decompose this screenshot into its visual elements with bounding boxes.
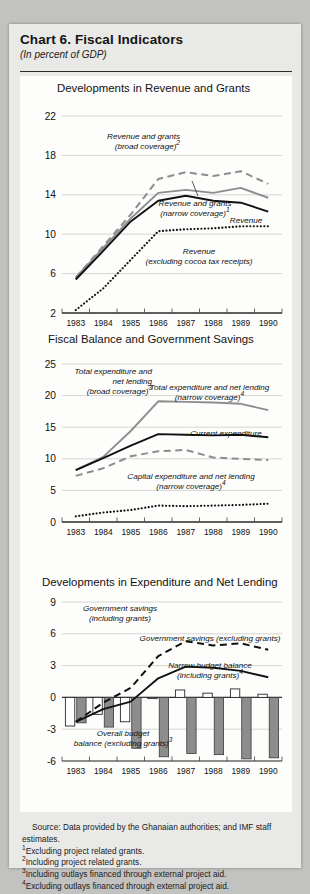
footnotes: Source: Data provided by the Ghanaian au… <box>22 822 292 893</box>
x-tick-label: 1984 <box>94 766 113 776</box>
footnote-1: 1Excluding project related grants. <box>22 846 292 858</box>
panel-2-plot: 0510152025198319841985198619871988198919… <box>20 326 292 569</box>
y-tick-label: 15 <box>45 422 57 433</box>
bar <box>258 694 267 697</box>
bar <box>230 689 239 697</box>
x-tick-label: 1987 <box>176 766 195 776</box>
x-tick-label: 1985 <box>121 766 140 776</box>
series-label: Revenue(excluding cocoa tax receipts) <box>124 247 274 267</box>
series-line <box>76 434 269 470</box>
x-tick-label: 1983 <box>66 766 85 776</box>
y-tick-label: 3 <box>50 660 56 671</box>
chart-figure: Chart 6. Fiscal Indicators (In percent o… <box>9 24 301 868</box>
bar <box>175 690 184 697</box>
x-tick-label: 1990 <box>259 527 278 537</box>
y-tick-label: 0 <box>50 692 56 703</box>
x-tick-label: 1983 <box>66 527 85 537</box>
series-label: Total expenditure and net lending(narrow… <box>132 383 287 403</box>
bar <box>214 697 223 754</box>
bar <box>148 697 157 698</box>
footnote-list: 1Excluding project related grants.2Inclu… <box>22 846 292 893</box>
series-label: Revenue <box>216 216 276 226</box>
y-tick-label: 9 <box>50 597 56 608</box>
y-tick-label: 10 <box>45 229 57 240</box>
chart-title: Chart 6. Fiscal Indicators <box>20 32 292 47</box>
footnote-3: 3Including outlays financed through exte… <box>22 869 292 881</box>
panel-expenditure-and-net-lending: Developments in Expenditure and Net Lend… <box>20 569 292 812</box>
plot-area: Developments in Revenue and Grants 26101… <box>20 76 292 812</box>
y-tick-label: -6 <box>47 756 56 767</box>
bar <box>242 697 251 758</box>
chart-subtitle: (In percent of GDP) <box>20 49 292 60</box>
series-label: Current expenditure <box>176 429 276 439</box>
y-tick-label: 0 <box>50 517 56 528</box>
x-tick-label: 1988 <box>204 766 223 776</box>
panel-revenue-and-grants: Developments in Revenue and Grants 26101… <box>20 76 292 326</box>
y-tick-label: 6 <box>50 628 56 639</box>
page-background: Chart 6. Fiscal Indicators (In percent o… <box>0 0 310 894</box>
x-tick-label: 1987 <box>176 527 195 537</box>
bar <box>120 697 129 721</box>
series-line <box>76 504 269 517</box>
chart-header: Chart 6. Fiscal Indicators (In percent o… <box>20 32 292 60</box>
series-line <box>76 226 269 310</box>
bar <box>65 697 74 726</box>
series-label: Revenue and grants(broad coverage)2 <box>60 132 180 152</box>
x-tick-label: 1986 <box>149 766 168 776</box>
series-label: Capital expenditure and net lending(narr… <box>106 472 276 492</box>
y-tick-label: 22 <box>45 111 57 122</box>
series-label: Government savings (excluding grants) <box>130 634 290 644</box>
y-tick-label: 14 <box>45 189 57 200</box>
x-tick-label: 1990 <box>259 766 278 776</box>
y-tick-label: 6 <box>50 268 56 279</box>
leader-line <box>192 181 198 196</box>
footnote-4: 4Excluding outlays financed through exte… <box>22 881 292 893</box>
x-tick-label: 1988 <box>204 527 223 537</box>
series-label: Narrow budget balance(including grants)4 <box>142 661 278 681</box>
x-tick-label: 1984 <box>94 527 113 537</box>
source-note: Source: Data provided by the Ghanaian au… <box>22 822 292 846</box>
series-label: Overall budgetbalance (excluding grants)… <box>48 729 198 749</box>
panel-fiscal-balance-and-savings: Fiscal Balance and Government Savings 05… <box>20 326 292 569</box>
footnote-2: 2Including project related grants. <box>22 857 292 869</box>
x-tick-label: 1985 <box>121 527 140 537</box>
x-tick-label: 1986 <box>149 527 168 537</box>
header-divider <box>20 71 292 72</box>
x-tick-label: 1989 <box>231 766 250 776</box>
y-tick-label: 5 <box>50 485 56 496</box>
series-label: Government savings(including grants) <box>62 604 178 624</box>
y-tick-label: 2 <box>50 308 56 319</box>
y-tick-label: 18 <box>45 150 57 161</box>
bar <box>203 693 212 697</box>
x-tick-label: 1989 <box>231 527 250 537</box>
y-tick-label: 10 <box>45 453 57 464</box>
bar <box>269 697 278 757</box>
